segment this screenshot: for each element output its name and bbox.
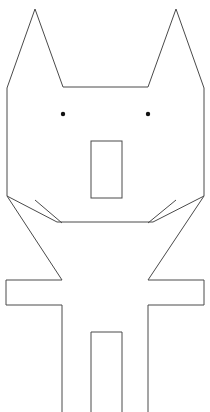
drawing-canvas xyxy=(0,0,210,412)
right-eye-dot xyxy=(146,112,150,116)
left-eye-dot xyxy=(61,112,65,116)
figure-illustration xyxy=(0,0,210,412)
canvas-background xyxy=(0,0,210,412)
